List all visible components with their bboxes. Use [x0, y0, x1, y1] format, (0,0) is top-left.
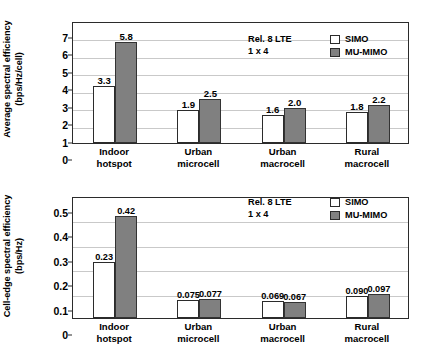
bar-mu-mimo[interactable]: 0.077	[199, 299, 221, 318]
y-axis-title: Cell-edge spectral efficiency (bps/Hz)	[2, 191, 32, 321]
bar-value-label: 1.6	[266, 104, 279, 115]
chart-legend: SIMO MU-MIMO	[330, 196, 387, 222]
legend-item-simo: SIMO	[330, 33, 387, 46]
x-axis-category-label: Urban microcell	[177, 146, 219, 170]
x-axis-category-label: Indoor hotspot	[97, 146, 132, 170]
y-axis-tick-label: 3	[48, 102, 68, 114]
bar-value-label: 3.3	[97, 75, 110, 86]
legend-label-simo: SIMO	[345, 33, 368, 46]
chart-annotation: Rel. 8 LTE 1 x 4	[248, 33, 292, 57]
bar-value-label: 1.8	[350, 101, 363, 112]
y-axis-tick-label: 5	[48, 67, 68, 79]
legend-swatch-simo-icon	[330, 198, 340, 207]
bar-simo[interactable]: 1.9	[177, 110, 199, 143]
bar-simo[interactable]: 3.3	[93, 86, 115, 144]
bar-value-label: 0.090	[345, 286, 368, 296]
x-axis-category-label: Urban macrocell	[260, 146, 305, 170]
y-axis-tick-label: 0.2	[48, 280, 68, 292]
chart-legend: SIMO MU-MIMO	[330, 33, 387, 59]
bar-simo[interactable]: 1.8	[346, 112, 368, 143]
bar-simo[interactable]: 1.6	[262, 115, 284, 143]
bar-mu-mimo[interactable]: 0.42	[115, 216, 137, 318]
legend-item-mu-mimo: MU-MIMO	[330, 209, 387, 222]
bar-group: 3.35.8	[73, 23, 157, 143]
chart-panel-cell-edge-spectral-efficiency: Cell-edge spectral efficiency (bps/Hz) 0…	[0, 181, 422, 351]
bar-value-label: 5.8	[119, 31, 132, 42]
bar-group: 1.92.5	[157, 23, 241, 143]
y-axis-tick-label: 4	[48, 84, 68, 96]
x-axis-category-label: Urban microcell	[177, 321, 219, 345]
legend-swatch-mu-mimo-icon	[330, 211, 340, 220]
bar-value-label: 2.5	[204, 88, 217, 99]
x-axis-category-label: Urban macrocell	[260, 321, 305, 345]
y-axis-tick-label: 0	[48, 154, 68, 166]
y-axis-tick-label: 7	[48, 32, 68, 44]
legend-item-simo: SIMO	[330, 196, 387, 209]
chart-panel-average-spectral-efficiency: Average spectral efficiency (bps/Hz/cell…	[0, 6, 422, 176]
x-axis-category-labels: Indoor hotspotUrban microcellUrban macro…	[72, 321, 409, 351]
y-axis-tick-label: 0.4	[48, 231, 68, 243]
legend-item-mu-mimo: MU-MIMO	[330, 46, 387, 59]
legend-swatch-mu-mimo-icon	[330, 48, 340, 57]
bar-value-label: 0.42	[117, 206, 135, 216]
bar-simo[interactable]: 0.23	[93, 262, 115, 318]
bar-mu-mimo[interactable]: 2.5	[199, 99, 221, 143]
y-axis-tick-label: 0.5	[48, 207, 68, 219]
bar-value-label: 0.097	[367, 284, 390, 294]
bar-value-label: 0.067	[283, 292, 306, 302]
chart-annotation: Rel. 8 LTE 1 x 4	[248, 196, 292, 220]
legend-swatch-simo-icon	[330, 35, 340, 44]
bar-value-label: 0.077	[199, 289, 222, 299]
x-axis-category-label: Indoor hotspot	[97, 321, 132, 345]
y-axis-tick-labels: 01234567	[44, 22, 68, 144]
y-axis-tick-label: 2	[48, 119, 68, 131]
legend-label-mu-mimo: MU-MIMO	[345, 46, 387, 59]
y-axis-title: Average spectral efficiency (bps/Hz/cell…	[2, 14, 32, 144]
legend-label-mu-mimo: MU-MIMO	[345, 209, 387, 222]
bar-mu-mimo[interactable]: 0.067	[284, 302, 306, 318]
x-axis-category-labels: Indoor hotspotUrban microcellUrban macro…	[72, 146, 409, 176]
bar-simo[interactable]: 0.090	[346, 296, 368, 318]
y-axis-tick-label: 0.1	[48, 305, 68, 317]
y-axis-tick-label: 0	[48, 329, 68, 341]
bar-value-label: 2.2	[372, 94, 385, 105]
x-axis-category-label: Rural macrocell	[344, 146, 389, 170]
y-axis-tick-labels: 00.10.20.30.40.5	[44, 197, 68, 319]
y-axis-tick-label: 1	[48, 137, 68, 149]
bar-mu-mimo[interactable]: 0.097	[368, 294, 390, 318]
bar-value-label: 0.075	[177, 290, 200, 300]
bar-mu-mimo[interactable]: 2.0	[284, 108, 306, 143]
bar-value-label: 0.069	[261, 291, 284, 301]
bar-group: 0.230.42	[73, 198, 157, 318]
bar-value-label: 2.0	[288, 97, 301, 108]
bar-value-label: 0.23	[95, 252, 113, 262]
bar-simo[interactable]: 0.069	[262, 301, 284, 318]
bar-mu-mimo[interactable]: 5.8	[115, 42, 137, 143]
figure-root: Average spectral efficiency (bps/Hz/cell…	[0, 0, 422, 351]
bar-simo[interactable]: 0.075	[177, 300, 199, 318]
y-axis-tick-label: 6	[48, 49, 68, 61]
legend-label-simo: SIMO	[345, 196, 368, 209]
y-axis-tick-label: 0.3	[48, 256, 68, 268]
bar-mu-mimo[interactable]: 2.2	[368, 105, 390, 143]
bar-group: 0.0750.077	[157, 198, 241, 318]
bar-value-label: 1.9	[182, 99, 195, 110]
x-axis-category-label: Rural macrocell	[344, 321, 389, 345]
